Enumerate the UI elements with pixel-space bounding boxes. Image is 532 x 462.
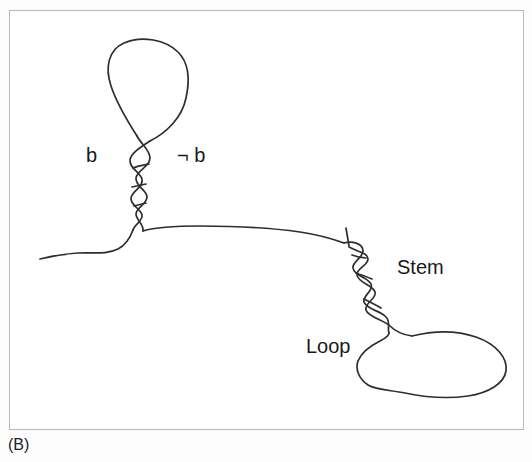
figure-frame bbox=[9, 10, 524, 430]
label-loop: Loop bbox=[306, 336, 351, 356]
figure-root: b ¬ b Stem Loop (B) bbox=[0, 0, 532, 462]
label-stem: Stem bbox=[397, 257, 444, 277]
label-b: b bbox=[86, 145, 97, 165]
figure-caption: (B) bbox=[8, 437, 29, 453]
label-not-b: ¬ b bbox=[177, 145, 205, 165]
